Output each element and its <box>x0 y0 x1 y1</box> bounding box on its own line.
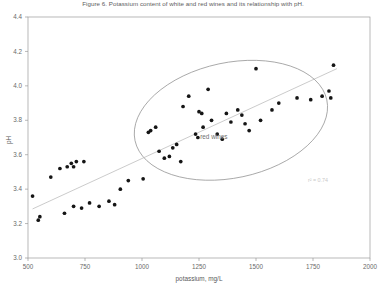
x-tick-label: 2000 <box>363 263 378 270</box>
y-tick-label: 3.2 <box>13 220 22 227</box>
data-point <box>200 112 204 116</box>
data-point <box>295 96 299 100</box>
data-point <box>320 94 324 98</box>
data-point <box>69 161 73 165</box>
x-tick-label: 1750 <box>306 263 321 270</box>
y-tick-label: 4.2 <box>13 48 22 55</box>
y-tick-label: 4.4 <box>13 13 22 20</box>
x-axis-ticks <box>28 258 370 261</box>
trend-line <box>33 69 337 209</box>
data-point <box>225 112 229 116</box>
x-axis-title: potassium, mg/L <box>176 275 223 283</box>
data-point <box>327 89 331 93</box>
data-point <box>277 101 281 105</box>
data-point <box>31 194 35 198</box>
data-point <box>38 215 42 219</box>
data-point <box>74 160 78 164</box>
data-point <box>236 108 240 112</box>
data-point <box>259 118 263 122</box>
y-axis-ticks <box>25 17 28 258</box>
data-point <box>65 165 69 169</box>
data-point <box>118 187 122 191</box>
data-point <box>309 98 313 102</box>
x-tick-label: 750 <box>80 263 91 270</box>
x-tick-label: 1250 <box>192 263 207 270</box>
y-tick-label: 3.6 <box>13 151 22 158</box>
data-point <box>58 167 62 171</box>
data-point <box>63 211 67 215</box>
data-point <box>247 129 251 133</box>
regression-line <box>33 69 337 209</box>
data-point <box>201 125 205 129</box>
y-tick-label: 3.0 <box>13 254 22 261</box>
x-tick-label: 1500 <box>249 263 264 270</box>
y-tick-label: 4.0 <box>13 82 22 89</box>
plot-annotations: red winesr² = 0.74 <box>200 133 328 183</box>
data-point <box>175 143 179 147</box>
data-point <box>72 205 76 209</box>
data-point <box>254 67 258 71</box>
x-tick-label: 1000 <box>135 263 150 270</box>
data-point <box>107 199 111 203</box>
y-axis-title: pH <box>5 136 13 145</box>
data-point <box>162 156 166 160</box>
y-tick-label: 3.8 <box>13 116 22 123</box>
data-point <box>49 175 53 179</box>
data-point <box>206 87 210 91</box>
data-point <box>88 201 92 205</box>
data-point <box>240 113 244 117</box>
data-point <box>141 177 145 181</box>
data-point <box>229 120 233 124</box>
data-point <box>329 96 333 100</box>
data-point <box>171 146 175 150</box>
annotation-r-squared: r² = 0.74 <box>308 177 328 183</box>
data-point <box>243 122 247 126</box>
data-point <box>36 218 40 222</box>
data-point <box>72 165 76 169</box>
annotation-red-wines-group: red wines <box>200 133 227 140</box>
x-tick-label: 500 <box>23 263 34 270</box>
data-point <box>181 105 185 109</box>
data-point <box>97 205 101 209</box>
y-axis-tick-labels: 3.03.23.43.63.84.04.24.4 <box>13 13 22 261</box>
x-axis-tick-labels: 50075010001250150017502000 <box>23 263 378 270</box>
scatter-plot: 50075010001250150017502000 3.03.23.43.63… <box>0 0 386 291</box>
data-point <box>80 206 84 210</box>
data-point <box>82 160 86 164</box>
data-point <box>149 129 153 133</box>
data-point <box>126 179 130 183</box>
data-point <box>113 203 117 207</box>
data-point <box>154 125 158 129</box>
data-point <box>157 149 161 153</box>
figure-container: Figure 6. Potassium content of white and… <box>0 0 386 291</box>
data-point <box>210 118 214 122</box>
data-point <box>187 94 191 98</box>
data-point <box>270 108 274 112</box>
data-point <box>194 132 198 136</box>
data-point <box>332 63 336 67</box>
y-tick-label: 3.4 <box>13 185 22 192</box>
data-point <box>179 160 183 164</box>
data-point <box>168 155 172 159</box>
data-points <box>31 63 336 222</box>
